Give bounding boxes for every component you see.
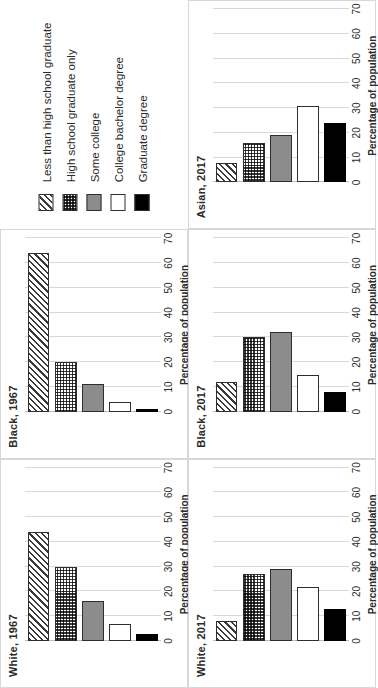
legend-swatch-lths xyxy=(39,194,54,211)
axis-tick-label: 30 xyxy=(351,332,362,343)
bar-row xyxy=(270,9,292,182)
bar-row xyxy=(28,468,50,641)
panel-title: White, 2017 xyxy=(195,614,207,677)
bar-grad xyxy=(324,123,346,182)
axis-tick-label: 20 xyxy=(351,357,362,368)
plot-area xyxy=(213,238,349,411)
chart-panel-asian-2017: Asian, 2017010203040506070Percentage of … xyxy=(188,0,376,229)
axis-tick-label: 70 xyxy=(351,3,362,14)
bar-grad xyxy=(324,609,346,641)
axis-tick-label: 60 xyxy=(163,487,174,498)
bar-row xyxy=(297,238,319,411)
legend-swatch-some xyxy=(87,194,102,211)
bar-some xyxy=(270,135,292,182)
axis-tick-label: 0 xyxy=(163,638,174,644)
bar-row xyxy=(243,9,265,182)
bar-row xyxy=(324,468,346,641)
axis-tick-label: 50 xyxy=(351,53,362,64)
bar-lths xyxy=(216,163,238,183)
bar-row xyxy=(324,238,346,411)
bar-row xyxy=(243,238,265,411)
chart-panel-white-1967: White, 1967010203040506070Percentage of … xyxy=(0,459,188,688)
chart-panel-white-2017: White, 2017010203040506070Percentage of … xyxy=(188,459,376,688)
bar-hs xyxy=(243,574,265,641)
plot-area xyxy=(213,468,349,641)
legend-item[interactable]: Less than high school graduate xyxy=(39,23,54,212)
axis-tick-label: 40 xyxy=(163,307,174,318)
axis-tick-label: 40 xyxy=(163,536,174,547)
axis-tick-label: 40 xyxy=(351,78,362,89)
axis-tick-label: 20 xyxy=(163,586,174,597)
axis-tick-label: 50 xyxy=(351,282,362,293)
legend-item[interactable]: College bachelor degree xyxy=(111,23,126,212)
legend-label: Graduate degree xyxy=(136,95,148,182)
axis-tick-label: 50 xyxy=(163,282,174,293)
axis-tick-label: 10 xyxy=(163,381,174,392)
axis-tick-label: 20 xyxy=(351,586,362,597)
legend-panel: Less than high school graduateHigh schoo… xyxy=(0,0,188,229)
axis-tick-label: 10 xyxy=(351,611,362,622)
bar-some xyxy=(82,384,104,411)
axis-tick-label: 60 xyxy=(351,258,362,269)
axis-tick-label: 40 xyxy=(351,307,362,318)
bar-row xyxy=(324,9,346,182)
bar-lths xyxy=(216,382,238,412)
legend-swatch-hs xyxy=(63,194,78,211)
bar-group xyxy=(25,238,161,411)
axis-tick-label: 10 xyxy=(163,611,174,622)
legend-label: College bachelor degree xyxy=(112,57,124,182)
bar-hs xyxy=(243,337,265,411)
axis-tick-label: 10 xyxy=(351,381,362,392)
axis-title: Percentage of population xyxy=(367,468,378,641)
axis-tick-label: 10 xyxy=(351,152,362,163)
bar-hs xyxy=(55,362,77,412)
bar-bach xyxy=(297,375,319,412)
panel-title: Black, 1967 xyxy=(7,386,19,448)
axis-tick-label: 0 xyxy=(351,638,362,644)
chart-panel-black-2017: Black, 2017010203040506070Percentage of … xyxy=(188,229,376,458)
bar-row xyxy=(82,238,104,411)
legend-swatch-grad xyxy=(135,194,150,211)
axis-title: Percentage of population xyxy=(367,238,378,411)
axis-tick-label: 50 xyxy=(163,512,174,523)
bar-row xyxy=(216,238,238,411)
bar-group xyxy=(213,238,349,411)
legend-swatch-bach xyxy=(111,194,126,211)
axis-tick-label: 0 xyxy=(351,180,362,186)
bar-row xyxy=(136,238,158,411)
bar-row xyxy=(270,468,292,641)
axis-tick-label: 50 xyxy=(351,512,362,523)
legend-item[interactable]: Some college xyxy=(87,23,102,212)
chart-panel-black-1967: Black, 1967010203040506070Percentage of … xyxy=(0,229,188,458)
legend-item[interactable]: High school graduate only xyxy=(63,23,78,212)
axis-tick-label: 30 xyxy=(163,561,174,572)
bar-some xyxy=(270,332,292,411)
axis-title-wrap: Percentage of population xyxy=(175,238,189,411)
axis-tick-label: 0 xyxy=(163,409,174,415)
legend: Less than high school graduateHigh schoo… xyxy=(30,23,159,212)
panel-title: White, 1967 xyxy=(7,614,19,677)
plot-area xyxy=(25,238,161,411)
bar-row xyxy=(270,238,292,411)
bar-group xyxy=(25,468,161,641)
panel-title: Black, 2017 xyxy=(195,386,207,448)
bar-grad xyxy=(136,634,158,641)
legend-label: Some college xyxy=(88,113,100,183)
bar-bach xyxy=(109,624,131,641)
axis-tick-label: 70 xyxy=(163,233,174,244)
axis-title-wrap: Percentage of population xyxy=(363,468,377,641)
axis-tick-label: 70 xyxy=(351,233,362,244)
bar-row xyxy=(55,238,77,411)
legend-item[interactable]: Graduate degree xyxy=(135,23,150,212)
axis-tick-label: 20 xyxy=(163,357,174,368)
bar-lths xyxy=(28,532,50,641)
bar-row xyxy=(297,468,319,641)
axis-tick-label: 60 xyxy=(351,28,362,39)
panel-title: Asian, 2017 xyxy=(195,156,207,219)
axis-title-wrap: Percentage of population xyxy=(363,9,377,182)
bar-bach xyxy=(297,587,319,641)
bar-row xyxy=(243,468,265,641)
axis-title-wrap: Percentage of population xyxy=(175,468,189,641)
bar-grad xyxy=(136,409,158,411)
